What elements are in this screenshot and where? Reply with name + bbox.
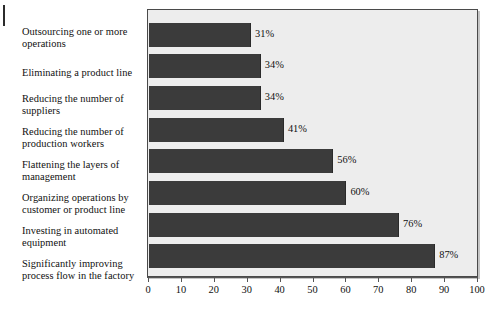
x-axis-tick <box>313 277 314 282</box>
x-axis-tick-label: 60 <box>340 284 350 296</box>
category-label: Reducing the number of suppliers <box>22 93 148 118</box>
x-axis-tick <box>247 277 248 282</box>
x-axis-tick <box>280 277 281 282</box>
x-axis-tick-label: 20 <box>209 284 219 296</box>
category-label-line: Investing in automated <box>22 225 118 236</box>
x-axis-tick-label: 70 <box>373 284 383 296</box>
x-axis-tick-label: 10 <box>176 284 186 296</box>
x-axis-tick-label: 100 <box>469 284 485 296</box>
category-label-line: Eliminating a product line <box>22 67 132 78</box>
bar <box>149 118 284 142</box>
plot-area <box>147 9 478 277</box>
x-axis-tick <box>214 277 215 282</box>
bar <box>149 213 399 237</box>
category-label: Eliminating a product line <box>22 67 148 79</box>
bars-layer <box>148 10 477 276</box>
x-axis-tick <box>411 277 412 282</box>
category-label-line: Significantly improving <box>22 258 123 269</box>
x-axis: 0102030405060708090100 <box>147 277 478 311</box>
category-label-line: customer or product line <box>22 204 125 215</box>
bar <box>149 86 261 110</box>
bar <box>149 181 346 205</box>
category-label-line: Flattening the layers of <box>22 159 119 170</box>
category-label: Investing in automated equipment <box>22 225 148 250</box>
category-label-line: Reducing the number of <box>22 126 124 137</box>
x-axis-tick <box>148 277 149 282</box>
category-label-line: Outsourcing one or more <box>22 26 127 37</box>
category-label: Organizing operations by customer or pro… <box>22 192 148 217</box>
category-label-line: operations <box>22 38 66 49</box>
category-label-line: production workers <box>22 138 104 149</box>
category-label: Significantly improving process flow in … <box>22 258 148 283</box>
bar <box>149 149 333 173</box>
x-axis-tick-label: 0 <box>145 284 150 296</box>
page-edge-mark <box>3 5 5 26</box>
bar <box>149 54 261 78</box>
category-label: Reducing the number of production worker… <box>22 126 148 151</box>
x-axis-tick <box>181 277 182 282</box>
category-label-line: management <box>22 171 76 182</box>
x-axis-tick-label: 50 <box>307 284 317 296</box>
category-label-line: equipment <box>22 237 66 248</box>
x-axis-tick <box>378 277 379 282</box>
x-axis-tick-label: 40 <box>274 284 284 296</box>
category-label-line: process flow in the factory <box>22 270 134 281</box>
category-label-line: Organizing operations by <box>22 192 129 203</box>
x-axis-tick-label: 80 <box>406 284 416 296</box>
category-label: Flattening the layers of management <box>22 159 148 184</box>
bar <box>149 23 251 47</box>
category-label-column: Outsourcing one or more operations Elimi… <box>22 8 144 280</box>
category-label-line: suppliers <box>22 105 60 116</box>
category-label-line: Reducing the number of <box>22 93 124 104</box>
x-axis-tick <box>477 277 478 282</box>
x-axis-tick <box>345 277 346 282</box>
x-axis-tick-label: 90 <box>439 284 449 296</box>
x-axis-tick-label: 30 <box>241 284 251 296</box>
horizontal-bar-chart: Outsourcing one or more operations Elimi… <box>0 0 498 311</box>
x-axis-tick <box>444 277 445 282</box>
bar <box>149 244 435 268</box>
category-label: Outsourcing one or more operations <box>22 26 148 51</box>
